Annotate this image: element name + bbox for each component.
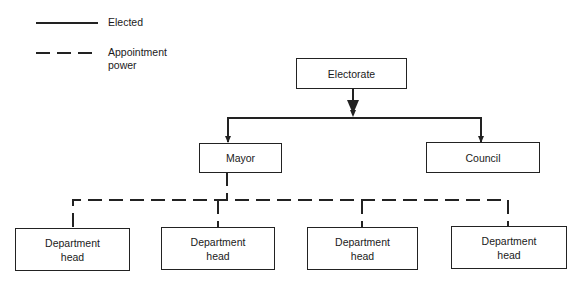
legend-elected-label: Elected: [108, 16, 143, 29]
appointment-connectors: [73, 172, 508, 227]
department-head-node-1: Departmenthead: [15, 228, 130, 271]
elected-connectors: [228, 88, 481, 142]
department-label-head: head: [61, 251, 84, 263]
legend-appointment-label: Appointment power: [108, 46, 167, 72]
department-head-node-3: Departmenthead: [307, 227, 418, 270]
department-label: Department: [191, 236, 246, 248]
department-head-node-4: Departmenthead: [451, 226, 567, 269]
department-label-head: head: [206, 250, 229, 262]
department-label: Department: [335, 236, 390, 248]
legend-appointment-line1: Appointment: [108, 46, 167, 58]
council-node: Council: [426, 142, 540, 173]
department-label: Department: [482, 235, 537, 247]
department-label-head: head: [497, 249, 520, 261]
arrow-from-electorate-icon: [350, 110, 356, 117]
electorate-node: Electorate: [296, 58, 407, 89]
council-label: Council: [465, 151, 500, 165]
arrow-to-mayor-icon: [225, 136, 231, 143]
department-label-head: head: [351, 250, 374, 262]
electorate-label: Electorate: [328, 67, 375, 81]
department-label: Department: [45, 237, 100, 249]
mayor-label: Mayor: [226, 151, 255, 165]
department-head-node-2: Departmenthead: [161, 227, 275, 270]
mayor-node: Mayor: [199, 143, 282, 173]
legend-appointment-line2: power: [108, 59, 137, 71]
